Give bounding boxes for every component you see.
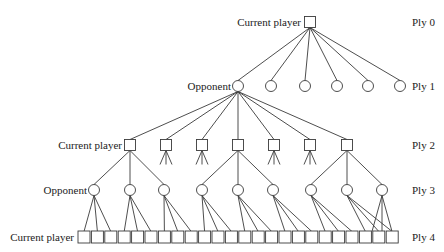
ply3-opponent-node [377, 185, 388, 196]
ply4-leaf-node [373, 231, 385, 243]
ply-0-label: Ply 0 [412, 16, 435, 28]
tree-edge [166, 151, 172, 165]
tree-edge [311, 196, 339, 232]
ply3-opponent-label: Opponent [44, 184, 87, 196]
ply2-current-player-node [161, 140, 172, 151]
tree-edge [238, 92, 274, 140]
ply4-leaf-node [252, 231, 264, 243]
ply4-player-label: Current player [10, 231, 74, 243]
tree-edge [273, 196, 298, 232]
tree-edge [238, 92, 347, 140]
tree-edge [347, 151, 382, 185]
tree-edge [304, 151, 310, 165]
tree-edge [347, 196, 392, 232]
ply-4-label: Ply 4 [412, 231, 435, 243]
tree-edge [310, 151, 316, 165]
ply4-leaf-node [172, 231, 184, 243]
tree-edge [268, 151, 274, 165]
ply2-current-player-node [342, 140, 353, 151]
ply4-leaf-node [346, 231, 358, 243]
ply4-leaf-node [118, 231, 130, 243]
ply-2-label: Ply 2 [412, 139, 435, 151]
ply-1-label: Ply 1 [412, 80, 435, 92]
tree-edge [311, 196, 352, 232]
ply1-opponent-node [233, 81, 244, 92]
ply4-leaf-node [386, 231, 398, 243]
ply-3-label: Ply 3 [412, 184, 435, 196]
tree-edge [164, 196, 191, 232]
ply4-leaf-node [279, 231, 291, 243]
tree-edge [124, 196, 130, 232]
ply4-leaf-node [225, 231, 237, 243]
ply3-opponent-node [268, 185, 279, 196]
ply4-leaf-node [199, 231, 211, 243]
tree-edge [164, 196, 178, 232]
ply1-opponent-label: Opponent [188, 80, 231, 92]
tree-edge [238, 151, 273, 185]
tree-edge [84, 196, 94, 232]
ply4-leaf-node [145, 231, 157, 243]
ply3-opponent-node [197, 185, 208, 196]
ply2-current-player-node [269, 140, 280, 151]
tree-edge [382, 196, 392, 232]
ply4-leaf-node [239, 231, 251, 243]
tree-edge [130, 196, 151, 232]
ply4-leaf-node [266, 231, 278, 243]
tree-edge [166, 92, 238, 140]
ply4-leaf-node [333, 231, 345, 243]
ply3-opponent-node [159, 185, 170, 196]
tree-edge [196, 151, 202, 165]
ply1-opponent-node [300, 81, 311, 92]
tree-edge [202, 151, 208, 165]
tree-edge [130, 151, 164, 185]
tree-edge [160, 151, 166, 165]
ply3-opponent-node [233, 185, 244, 196]
ply1-opponent-node [395, 81, 406, 92]
ply2-player-label: Current player [58, 139, 122, 151]
ply1-opponent-node [266, 81, 277, 92]
game-tree-diagram: Current player Opponent Current player O… [0, 0, 444, 252]
tree-edge [305, 28, 310, 81]
ply1-opponent-node [363, 81, 374, 92]
tree-edge [130, 92, 238, 140]
tree-edge [130, 196, 138, 232]
ply2-current-player-node [233, 140, 244, 151]
tree-edge [202, 92, 238, 140]
tree-edge [94, 151, 130, 185]
tree-edge [202, 196, 231, 232]
ply3-opponent-node [342, 185, 353, 196]
tree-edge [202, 151, 238, 185]
ply4-leaf-node [306, 231, 318, 243]
ply4-leaf-node [319, 231, 331, 243]
ply4-leaf-node [132, 231, 144, 243]
root-player-label: Current player [237, 16, 301, 28]
ply4-leaf-node [158, 231, 170, 243]
ply2-current-player-node [125, 140, 136, 151]
ply4-leaf-node [185, 231, 197, 243]
ply1-opponent-node [332, 81, 343, 92]
tree-edge [311, 151, 347, 185]
ply3-opponent-node [89, 185, 100, 196]
tree-edge [311, 196, 325, 232]
ply4-leaf-node [105, 231, 117, 243]
ply4-leaf-node [212, 231, 224, 243]
tree-edge [372, 196, 382, 232]
tree-edges [84, 28, 400, 232]
ply2-current-player-node [305, 140, 316, 151]
tree-edge [271, 28, 310, 81]
tree-edge [274, 151, 280, 165]
ply3-opponent-node [306, 185, 317, 196]
root-current-player-node [305, 17, 316, 28]
ply3-opponent-node [125, 185, 136, 196]
ply4-leaf-node [78, 231, 90, 243]
ply2-current-player-node [197, 140, 208, 151]
tree-edge [238, 28, 310, 81]
tree-nodes [78, 17, 406, 244]
tree-edge [238, 92, 310, 140]
tree-edge [310, 28, 368, 81]
ply4-leaf-node [359, 231, 371, 243]
ply4-leaf-node [292, 231, 304, 243]
ply4-leaf-node [91, 231, 103, 243]
